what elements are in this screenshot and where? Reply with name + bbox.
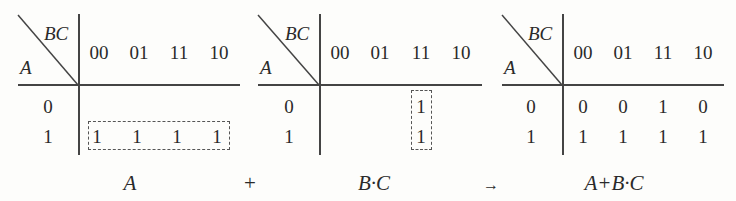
col-header: 01 xyxy=(124,43,154,62)
row-header: 1 xyxy=(274,127,304,146)
horizontal-axis-line xyxy=(18,84,240,86)
row-header: 0 xyxy=(516,97,546,116)
plus-operator: + xyxy=(244,173,256,194)
col-variable-label: BC xyxy=(44,24,68,43)
cell: 1 xyxy=(648,97,678,116)
term-bc: B·C xyxy=(358,173,390,194)
col-header: 10 xyxy=(204,43,234,62)
row-variable-label: A xyxy=(504,58,516,77)
row-variable-label: A xyxy=(20,58,32,77)
row-header: 1 xyxy=(516,127,546,146)
arrow-icon: → xyxy=(483,177,499,193)
cell: 1 xyxy=(688,127,718,146)
col-header: 10 xyxy=(688,43,718,62)
cell: 1 xyxy=(608,127,638,146)
col-header: 01 xyxy=(608,43,638,62)
col-variable-label: BC xyxy=(285,24,309,43)
cell: 1 xyxy=(568,127,598,146)
row-header: 1 xyxy=(33,127,63,146)
kmap-a: BC A 00 01 11 10 0 1 1 1 1 1 xyxy=(0,0,240,160)
col-header: 00 xyxy=(568,43,598,62)
col-header: 01 xyxy=(365,43,395,62)
horizontal-axis-line xyxy=(258,84,482,86)
result-expression: A+B·C xyxy=(584,173,643,194)
row-header: 0 xyxy=(33,97,63,116)
col-header: 00 xyxy=(325,43,355,62)
kmap-result: BC A 00 01 11 10 0 1 0 0 1 0 1 1 1 1 xyxy=(484,0,724,160)
group-box-column xyxy=(411,90,432,150)
cell: 0 xyxy=(688,97,718,116)
group-box-row xyxy=(88,121,230,150)
horizontal-axis-line xyxy=(502,84,724,86)
row-header: 0 xyxy=(274,97,304,116)
col-header: 00 xyxy=(84,43,114,62)
col-header: 11 xyxy=(406,43,436,62)
cell: 0 xyxy=(568,97,598,116)
col-header: 11 xyxy=(648,43,678,62)
term-a: A xyxy=(124,173,137,194)
col-header: 10 xyxy=(446,43,476,62)
row-variable-label: A xyxy=(260,58,272,77)
kmap-bc: BC A 00 01 11 10 0 1 1 1 xyxy=(240,0,480,160)
col-variable-label: BC xyxy=(528,24,552,43)
cell: 1 xyxy=(648,127,678,146)
col-header: 11 xyxy=(164,43,194,62)
cell: 0 xyxy=(608,97,638,116)
